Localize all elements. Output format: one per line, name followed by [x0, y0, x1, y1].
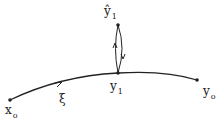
point-y0	[195, 78, 199, 82]
geodesic-curve	[10, 72, 197, 100]
point-y1	[116, 71, 120, 75]
label-y1: y1	[110, 80, 123, 92]
arrow-xi-icon	[55, 82, 62, 87]
label-y1hat: ŷ1	[104, 5, 117, 17]
label-xi: ξ	[59, 93, 66, 105]
label-y0: yo	[203, 85, 216, 97]
point-x0	[8, 98, 12, 102]
label-x0: xo	[5, 104, 18, 116]
point-y1hat	[116, 23, 120, 27]
diagram-canvas	[0, 0, 222, 126]
loop-right	[118, 25, 122, 73]
loop-left	[116, 25, 119, 73]
arrow-up-icon	[113, 43, 117, 48]
